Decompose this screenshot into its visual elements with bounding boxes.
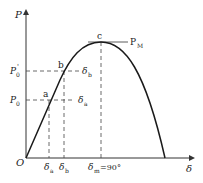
svg-text:0: 0: [16, 100, 20, 107]
svg-text:M: M: [137, 42, 143, 49]
p0-prime-label: P 0 ': [9, 63, 20, 78]
svg-text:0: 0: [16, 71, 20, 78]
delta-b-tick-label: δ b: [59, 162, 69, 174]
delta-a-right-label: δ a: [78, 95, 88, 107]
p0-label: P 0: [9, 95, 20, 107]
svg-text:a: a: [50, 167, 54, 174]
svg-text:δ: δ: [44, 162, 49, 172]
power-angle-diagram: P O δ a b c P 0 P 0 ' P M δ a δ b δ a δ …: [0, 0, 203, 183]
point-b-label: b: [58, 60, 64, 70]
svg-text:a: a: [84, 100, 88, 107]
point-c-label: c: [97, 31, 102, 41]
svg-text:=90°: =90°: [100, 163, 121, 172]
svg-text:δ: δ: [59, 162, 64, 172]
point-a-label: a: [43, 89, 49, 99]
y-axis-label: P: [14, 9, 22, 20]
pm-label: P M: [130, 37, 143, 49]
origin-label: O: [16, 157, 24, 168]
svg-text:': ': [17, 63, 19, 71]
svg-text:δ: δ: [88, 162, 93, 172]
svg-text:b: b: [88, 71, 92, 78]
svg-text:b: b: [65, 167, 69, 174]
svg-text:δ: δ: [82, 66, 87, 76]
delta-m-tick-label: δ m =90°: [88, 162, 121, 174]
power-curve: [26, 42, 165, 158]
svg-text:P: P: [130, 37, 136, 47]
x-axis-label: δ: [186, 163, 192, 174]
delta-a-tick-label: δ a: [44, 162, 54, 174]
svg-text:δ: δ: [78, 95, 83, 105]
delta-b-right-label: δ b: [82, 66, 92, 78]
